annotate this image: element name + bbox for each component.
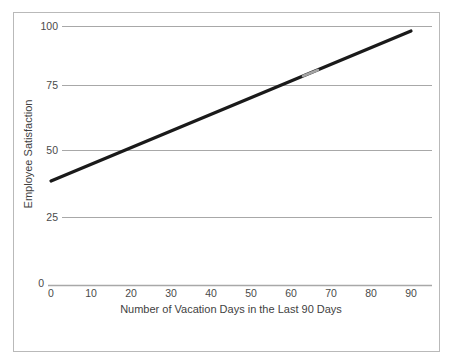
gridlines xyxy=(48,27,432,286)
xtick-label-80: 80 xyxy=(359,288,383,299)
xtick-label-0: 0 xyxy=(39,288,63,299)
xtick-label-30: 30 xyxy=(159,288,183,299)
xtick-label-20: 20 xyxy=(119,288,143,299)
data-series-line xyxy=(51,31,411,181)
xtick-label-60: 60 xyxy=(279,288,303,299)
ytick-label-25: 25 xyxy=(14,212,58,223)
xtick-label-90: 90 xyxy=(399,288,423,299)
xtick-label-70: 70 xyxy=(319,288,343,299)
ytick-label-75: 75 xyxy=(14,80,58,91)
y-axis-title: Employee Satisfaction xyxy=(22,74,34,234)
highlight-marker xyxy=(303,70,318,76)
trend-line xyxy=(51,31,411,181)
xtick-label-40: 40 xyxy=(199,288,223,299)
x-axis-title: Number of Vacation Days in the Last 90 D… xyxy=(51,303,411,315)
xtick-label-10: 10 xyxy=(79,288,103,299)
ytick-label-100: 100 xyxy=(14,21,58,32)
xtick-label-50: 50 xyxy=(239,288,263,299)
ytick-label-50: 50 xyxy=(14,145,58,156)
